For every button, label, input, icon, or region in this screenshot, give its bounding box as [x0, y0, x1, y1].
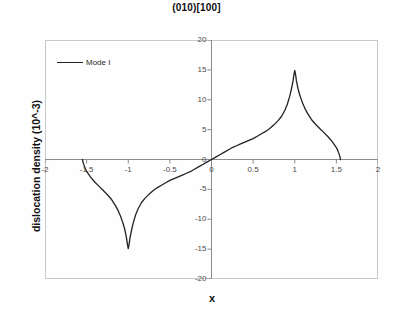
- chart-figure: (010)[100] dislocation density (10^-3) x…: [0, 0, 393, 316]
- x-tick-label: 0.5: [240, 165, 266, 174]
- y-tick-label: 5: [185, 125, 207, 134]
- y-tick-label: 10: [185, 95, 207, 104]
- x-tick-label: 2: [365, 165, 391, 174]
- y-tick-label: 20: [185, 35, 207, 44]
- x-tick-label: 1.5: [323, 165, 349, 174]
- legend-label-mode-i: Mode I: [86, 58, 110, 67]
- x-tick-label: -2: [32, 165, 58, 174]
- x-tick-label: -1.5: [74, 165, 100, 174]
- y-tick-label: -15: [185, 244, 207, 253]
- x-tick-label: 0: [199, 165, 225, 174]
- x-tick-label: -0.5: [157, 165, 183, 174]
- x-tick-label: -1: [115, 165, 141, 174]
- x-tick-label: 1: [282, 165, 308, 174]
- y-tick-label: -5: [185, 184, 207, 193]
- legend-line-swatch: [57, 62, 83, 63]
- legend: Mode I: [57, 58, 110, 67]
- chart-title: (010)[100]: [0, 2, 393, 13]
- y-tick-label: -10: [185, 214, 207, 223]
- y-tick-label: 15: [185, 65, 207, 74]
- y-tick-label: -20: [185, 274, 207, 283]
- x-axis-title: x: [45, 292, 379, 304]
- plot-canvas: [45, 40, 378, 279]
- y-tick-label: 0: [185, 155, 207, 164]
